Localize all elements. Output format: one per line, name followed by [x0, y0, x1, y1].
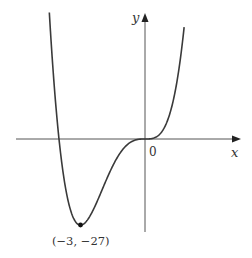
- origin-label: 0: [149, 145, 157, 159]
- function-curve: [49, 13, 184, 226]
- function-graph: y x 0 (−3, −27): [0, 0, 252, 258]
- minimum-point-label: (−3, −27): [52, 234, 110, 248]
- y-axis-arrow-icon: [142, 13, 149, 22]
- x-axis-arrow-icon: [232, 136, 241, 143]
- y-axis-label: y: [131, 10, 140, 25]
- x-axis-label: x: [231, 145, 239, 160]
- minimum-point-marker: [78, 223, 83, 228]
